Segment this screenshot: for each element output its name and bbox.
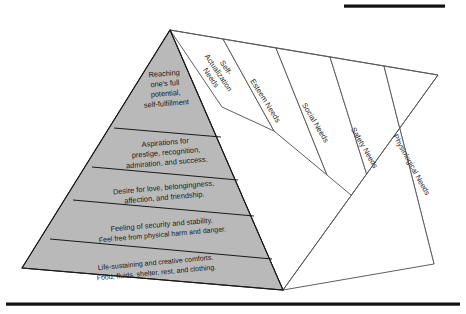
bottom-rule (6, 303, 460, 306)
maslow-pyramid-figure: Reaching one's full potential, self-fulf… (0, 0, 466, 314)
top-rule (344, 5, 445, 8)
figure-container: Reaching one's full potential, self-fulf… (0, 0, 466, 314)
